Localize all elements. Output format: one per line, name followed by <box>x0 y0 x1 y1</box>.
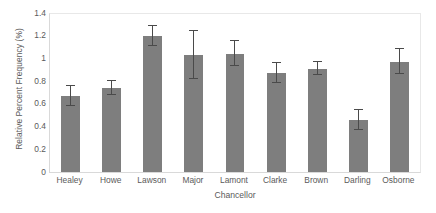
y-tick-label: 1.2 <box>20 31 46 39</box>
error-bar-line <box>152 26 153 46</box>
bar[interactable] <box>61 96 80 172</box>
bar[interactable] <box>267 73 286 172</box>
x-tick-label-osborne: Osborne <box>378 176 419 184</box>
error-bar-cap-lower <box>354 129 363 130</box>
error-bar-cap-upper <box>354 109 363 110</box>
error-bar-line <box>358 110 359 130</box>
error-bar-line <box>317 62 318 76</box>
bar-group[interactable] <box>267 14 286 172</box>
error-bar-cap-upper <box>148 25 157 26</box>
plot-area <box>49 13 421 173</box>
x-tick-label-lamont: Lamont <box>213 176 254 184</box>
y-tick-label: 0.6 <box>20 99 46 107</box>
error-bar-cap-lower <box>66 105 75 106</box>
error-bar-cap-upper <box>107 80 116 81</box>
error-bar-cap-upper <box>313 61 322 62</box>
error-bar-line <box>234 41 235 66</box>
error-bar-line <box>111 81 112 95</box>
error-bar-line <box>70 86 71 106</box>
bar-group[interactable] <box>308 14 327 172</box>
error-bar-cap-upper <box>230 40 239 41</box>
bar[interactable] <box>102 88 121 172</box>
error-bar-line <box>193 31 194 79</box>
plot-inner <box>50 14 420 172</box>
error-bar-line <box>276 63 277 83</box>
error-bar-cap-lower <box>107 94 116 95</box>
x-tick-label-howe: Howe <box>90 176 131 184</box>
x-axis-title: Chancellor <box>49 190 421 200</box>
y-tick-label: 0 <box>20 168 46 176</box>
y-axis-tick-labels: 00.20.40.60.811.21.4 <box>20 0 46 213</box>
error-bar-line <box>399 49 400 74</box>
bar-group[interactable] <box>184 14 203 172</box>
x-tick-label-brown: Brown <box>296 176 337 184</box>
error-bar-cap-lower <box>189 78 198 79</box>
x-tick-label-healey: Healey <box>49 176 90 184</box>
error-bar-cap-lower <box>395 73 404 74</box>
x-axis-tick-labels: HealeyHoweLawsonMajorLamontClarkeBrownDa… <box>49 176 421 190</box>
error-bar-cap-lower <box>148 45 157 46</box>
y-tick-label: 0.8 <box>20 77 46 85</box>
y-tick-label: 0.2 <box>20 145 46 153</box>
error-bar-cap-upper <box>189 30 198 31</box>
bar[interactable] <box>308 69 327 172</box>
y-tick-label: 1.4 <box>20 9 46 17</box>
x-tick-label-clarke: Clarke <box>255 176 296 184</box>
bar-group[interactable] <box>226 14 245 172</box>
bar-group[interactable] <box>349 14 368 172</box>
bar[interactable] <box>390 62 409 172</box>
error-bar-cap-upper <box>395 48 404 49</box>
bar-chart: Relative Percent Frequency (%) 00.20.40.… <box>0 0 436 213</box>
x-tick-label-darling: Darling <box>337 176 378 184</box>
y-tick-label: 1 <box>20 54 46 62</box>
bar-group[interactable] <box>102 14 121 172</box>
error-bar-cap-lower <box>272 82 281 83</box>
x-tick-label-lawson: Lawson <box>131 176 172 184</box>
x-tick-label-major: Major <box>172 176 213 184</box>
bar-group[interactable] <box>390 14 409 172</box>
bar-group[interactable] <box>61 14 80 172</box>
error-bar-cap-upper <box>272 62 281 63</box>
bar[interactable] <box>143 36 162 172</box>
bar-group[interactable] <box>143 14 162 172</box>
error-bar-cap-lower <box>230 65 239 66</box>
error-bar-cap-upper <box>66 85 75 86</box>
bar[interactable] <box>226 54 245 172</box>
error-bar-cap-lower <box>313 74 322 75</box>
y-tick-label: 0.4 <box>20 122 46 130</box>
